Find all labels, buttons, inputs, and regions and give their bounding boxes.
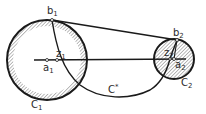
circle-c2 [0, 0, 206, 114]
diagram-canvas: b1 b2 z1 z2 a1 a2 C1 C2 C* [0, 0, 206, 114]
point-b2 [176, 39, 179, 42]
point-b1 [51, 19, 54, 22]
